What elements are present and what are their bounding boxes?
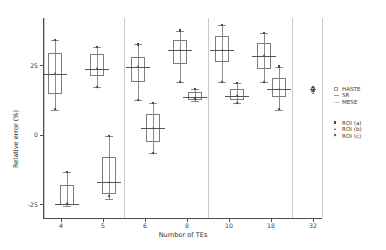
y-tick-label: 25: [30, 62, 38, 69]
y-axis-title: Relative error (%): [12, 110, 20, 168]
x-tick-label: 4: [46, 222, 76, 230]
whisker-cap: [312, 93, 314, 94]
diamond-marker-icon: [334, 134, 337, 137]
x-axis-title: Number of TEs: [118, 231, 248, 239]
box-outline-icon: [334, 87, 338, 91]
y-tick-mark: [40, 135, 43, 136]
plot-area: [44, 18, 322, 218]
x-tick-label: 32: [298, 222, 328, 230]
x-axis-line: [43, 218, 322, 219]
y-axis-line: [43, 18, 44, 218]
y-tick-label: 0: [34, 131, 38, 138]
legend-label: MESE: [342, 99, 357, 105]
box-plot-group[interactable]: [44, 18, 322, 218]
diamond-marker: [311, 89, 314, 92]
y-tick-label: -25: [28, 201, 38, 208]
panel-separator: [322, 18, 323, 218]
boxplot-chart: 250-25 4568101832 Relative error (%) Num…: [0, 0, 386, 250]
legend-label: ROI (c): [342, 133, 361, 139]
x-tick-label: 8: [172, 222, 202, 230]
triangle-marker-icon: [334, 128, 336, 130]
x-tick-label: 5: [88, 222, 118, 230]
x-tick-label: 6: [130, 222, 160, 230]
y-tick-mark: [40, 204, 43, 205]
square-marker-icon: [334, 121, 336, 123]
y-tick-mark: [40, 65, 43, 66]
dotted-line-icon: [334, 102, 339, 103]
line-icon: [334, 95, 339, 96]
x-tick-label: 10: [214, 222, 244, 230]
x-tick-label: 18: [256, 222, 286, 230]
